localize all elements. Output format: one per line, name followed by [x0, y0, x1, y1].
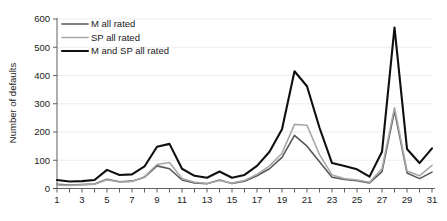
x-axis-tick-label: 5 [104, 194, 109, 205]
chart-figure: 0100200300400500600 13579111315171921232… [0, 0, 447, 221]
x-axis-tick-label: 31 [427, 194, 438, 205]
legend-label-0: M all rated [91, 18, 135, 29]
y-axis-tick-labels-group: 0100200300400500600 [34, 13, 50, 194]
y-axis-ticks-group [53, 19, 57, 189]
x-axis-tick-label: 23 [327, 194, 338, 205]
x-axis-tick-label: 19 [277, 194, 288, 205]
x-axis-tick-label: 1 [54, 194, 59, 205]
x-axis-tick-label: 7 [129, 194, 134, 205]
y-axis-tick-label: 600 [34, 13, 50, 24]
x-axis-tick-label: 11 [177, 194, 187, 205]
y-axis-tick-label: 300 [34, 98, 50, 109]
line-chart-svg: 0100200300400500600 13579111315171921232… [0, 0, 447, 221]
x-axis-tick-label: 3 [79, 194, 84, 205]
y-axis-tick-label: 500 [34, 42, 50, 53]
x-axis-tick-label: 15 [227, 194, 238, 205]
y-axis-title: Number of defaults [7, 63, 18, 144]
x-axis-tick-labels-group: 135791113151719212325272931 [54, 194, 437, 205]
x-axis-tick-label: 13 [202, 194, 213, 205]
x-axis-ticks-group [57, 189, 432, 193]
x-axis-tick-label: 17 [252, 194, 263, 205]
x-axis-tick-label: 25 [352, 194, 363, 205]
x-axis-tick-label: 29 [402, 194, 413, 205]
x-axis-tick-label: 9 [154, 194, 159, 205]
y-axis-tick-label: 400 [34, 70, 50, 81]
x-axis-tick-label: 21 [302, 194, 313, 205]
y-axis-tick-label: 100 [34, 155, 50, 166]
legend-group: M all ratedSP all ratedM and SP all rate… [62, 18, 169, 56]
x-axis-tick-label: 27 [377, 194, 388, 205]
y-axis-tick-label: 200 [34, 126, 50, 137]
y-axis-tick-label: 0 [45, 183, 50, 194]
legend-label-2: M and SP all rated [91, 45, 169, 56]
legend-label-1: SP all rated [91, 32, 140, 43]
